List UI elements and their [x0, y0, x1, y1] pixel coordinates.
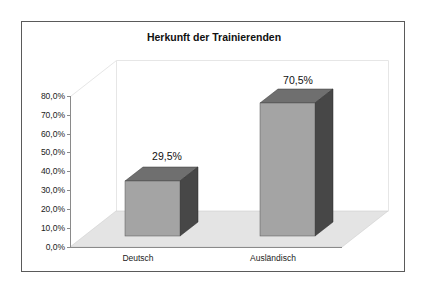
- chart-floor: [70, 211, 388, 247]
- y-tick-label: 80,0%: [41, 91, 66, 101]
- x-tick-label-auslaendisch: Ausländisch: [250, 253, 296, 263]
- x-tick-label-deutsch: Deutsch: [122, 253, 153, 263]
- y-tick-labels: 0,0% 10,0% 20,0% 30,0% 40,0% 50,0% 60,0%…: [41, 91, 66, 252]
- y-ticks: [67, 97, 70, 248]
- y-tick-label: 50,0%: [41, 147, 66, 157]
- chart-svg: Herkunft der Trainierenden 0,0% 10,0% 20…: [0, 0, 428, 290]
- y-tick-label: 10,0%: [41, 223, 66, 233]
- bar-auslaendisch: [260, 89, 333, 236]
- y-tick-label: 30,0%: [41, 185, 66, 195]
- bar-deutsch: [125, 167, 198, 236]
- y-tick-label: 70,0%: [41, 110, 66, 120]
- chart-title: Herkunft der Trainierenden: [147, 31, 281, 43]
- y-tick-label: 40,0%: [41, 166, 66, 176]
- data-label-auslaendisch: 70,5%: [283, 74, 313, 86]
- bar-side: [315, 89, 333, 236]
- bar-front: [125, 181, 180, 236]
- back-wall: [71, 61, 389, 212]
- y-tick-label: 0,0%: [46, 242, 66, 252]
- y-tick-label: 20,0%: [41, 204, 66, 214]
- y-tick-label: 60,0%: [41, 129, 66, 139]
- bar-front: [260, 103, 315, 236]
- data-label-deutsch: 29,5%: [152, 150, 182, 162]
